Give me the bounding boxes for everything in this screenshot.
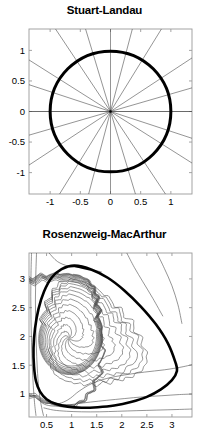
x-tick-label: 0 xyxy=(108,196,113,207)
fixed-point-marker xyxy=(109,110,112,113)
x-tick-label: 1.5 xyxy=(90,419,103,430)
y-tick-label: 0 xyxy=(20,106,25,117)
rosenzweig-macarthur-plot: 0.511.522.5311.522.53 xyxy=(0,224,209,447)
x-tick-label: 2 xyxy=(119,419,124,430)
y-tick-label: 3 xyxy=(20,273,25,284)
y-tick-label: -0.5 xyxy=(9,136,25,147)
y-tick-label: 0.5 xyxy=(12,75,25,86)
x-tick-label: 3 xyxy=(169,419,174,430)
y-tick-label: 1 xyxy=(20,388,25,399)
y-tick-label: -1 xyxy=(17,167,25,178)
y-tick-label: 2 xyxy=(20,331,25,342)
x-tick-label: 1 xyxy=(69,419,74,430)
phase-portrait-figure: Stuart-Landau -1-0.500.51-1-0.500.51 Ros… xyxy=(0,0,209,447)
x-tick-label: 1 xyxy=(168,196,173,207)
panel-stuart-landau: Stuart-Landau -1-0.500.51-1-0.500.51 xyxy=(0,0,209,223)
x-tick-label: -1 xyxy=(46,196,54,207)
x-tick-label: 0.5 xyxy=(40,419,53,430)
x-tick-label: -0.5 xyxy=(72,196,88,207)
y-tick-label: 1.5 xyxy=(12,360,25,371)
panel-rosenzweig-macarthur: Rosenzweig-MacArthur 0.511.522.5311.522.… xyxy=(0,224,209,447)
y-tick-label: 1 xyxy=(20,45,25,56)
y-tick-label: 2.5 xyxy=(12,302,25,313)
x-tick-label: 0.5 xyxy=(134,196,147,207)
stuart-landau-plot: -1-0.500.51-1-0.500.51 xyxy=(0,0,209,223)
x-tick-label: 2.5 xyxy=(140,419,153,430)
